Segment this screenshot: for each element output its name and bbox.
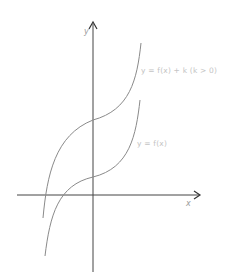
curve-original-label: y = f(x)	[137, 139, 167, 148]
y-axis-label: y	[84, 27, 89, 36]
graph-canvas	[0, 0, 238, 279]
curve-shifted	[43, 43, 141, 218]
x-axis-label: x	[186, 199, 191, 208]
curve-shifted-label: y = f(x) + k (k > 0)	[141, 66, 217, 75]
